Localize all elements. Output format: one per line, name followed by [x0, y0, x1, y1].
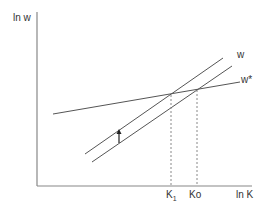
y-axis-label: ln w — [13, 13, 31, 23]
w-star-curve-label: w* — [241, 75, 252, 85]
w-curve-label: w — [237, 50, 244, 60]
w-line-lower — [92, 66, 232, 162]
k1-tick-label: K1 — [166, 190, 177, 202]
k1-tick-main: K — [166, 189, 173, 200]
diagram: ln w ln K w w* K1 Ko — [0, 0, 267, 209]
x-axis-label: ln K — [236, 190, 253, 200]
ko-tick-label: Ko — [189, 190, 201, 200]
w-star-line — [53, 82, 240, 114]
w-line-upper — [85, 58, 223, 154]
k1-tick-subscript: 1 — [173, 195, 177, 202]
diagram-canvas — [0, 0, 267, 209]
